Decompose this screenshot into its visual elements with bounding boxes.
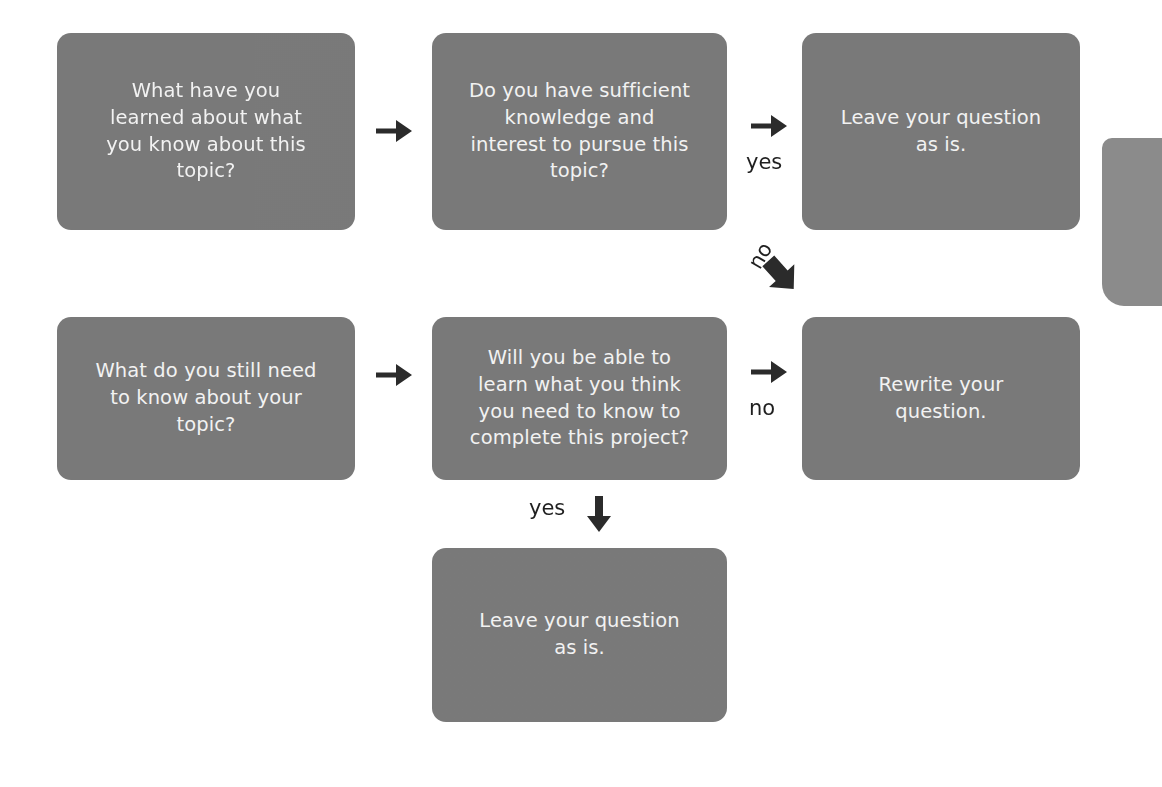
flowchart-node-leave-question-as-is-top[interactable]: Leave your question as is. — [802, 33, 1080, 230]
flowchart-node-leave-question-as-is-bottom[interactable]: Leave your question as is. — [432, 548, 727, 722]
node-label: Rewrite your question. — [818, 372, 1064, 426]
node-label: Leave your question as is. — [818, 105, 1064, 159]
arrow-right-icon — [749, 111, 789, 141]
flowchart-node-what-have-you-learned[interactable]: What have you learned about what you kno… — [57, 33, 355, 230]
node-label: What have you learned about what you kno… — [73, 78, 339, 186]
edge-label-yes-row1: yes — [746, 152, 782, 173]
edge-label-no-row2: no — [749, 398, 775, 419]
flowchart-node-will-you-be-able-to-learn[interactable]: Will you be able to learn what you think… — [432, 317, 727, 480]
arrow-right-icon — [374, 360, 414, 390]
node-label: Leave your question as is. — [448, 608, 711, 662]
flowchart-node-rewrite-your-question[interactable]: Rewrite your question. — [802, 317, 1080, 480]
node-label: What do you still need to know about you… — [73, 358, 339, 439]
edge-label-yes-down: yes — [529, 498, 565, 519]
arrow-right-icon — [749, 357, 789, 387]
node-label: Will you be able to learn what you think… — [448, 345, 711, 453]
flowchart-node-cropped-right-edge — [1102, 138, 1162, 306]
arrow-right-icon — [374, 116, 414, 146]
node-label: Do you have sufficient knowledge and int… — [448, 78, 711, 186]
arrow-down-icon — [584, 494, 614, 534]
flowchart-node-sufficient-knowledge-question[interactable]: Do you have sufficient knowledge and int… — [432, 33, 727, 230]
flowchart-node-what-do-you-still-need[interactable]: What do you still need to know about you… — [57, 317, 355, 480]
